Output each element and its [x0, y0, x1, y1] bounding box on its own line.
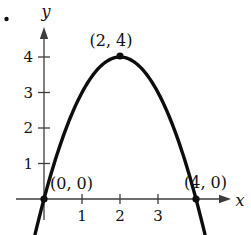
x-tick-label: 1 [77, 207, 87, 225]
y-tick-label: 2 [23, 119, 33, 137]
data-point-x-intercept [192, 195, 199, 202]
point-label-x-intercept: (4, 0) [184, 173, 227, 192]
data-point-origin [40, 195, 47, 202]
problem-number-dot [4, 17, 8, 21]
x-tick-label: 3 [153, 207, 163, 225]
x-axis-label: x [235, 191, 244, 210]
parabola-figure-svg: 1 2 3 1 2 3 4 x y (0, 0) (2, 4) (4, 0) [0, 0, 251, 235]
point-label-origin: (0, 0) [50, 174, 93, 193]
x-tick-label: 2 [115, 207, 125, 225]
y-axis-ticks: 1 2 3 4 [23, 48, 50, 173]
parabola-figure: 1 2 3 1 2 3 4 x y (0, 0) (2, 4) (4, 0) [0, 0, 251, 235]
y-tick-label: 4 [23, 48, 33, 66]
x-axis-arrow-icon [219, 195, 231, 203]
y-axis-label: y [40, 2, 51, 21]
y-axis-arrow-icon [40, 27, 48, 39]
data-point-vertex [116, 52, 123, 59]
y-tick-label: 3 [23, 84, 33, 102]
point-label-vertex: (2, 4) [89, 31, 132, 50]
y-tick-label: 1 [23, 155, 33, 173]
